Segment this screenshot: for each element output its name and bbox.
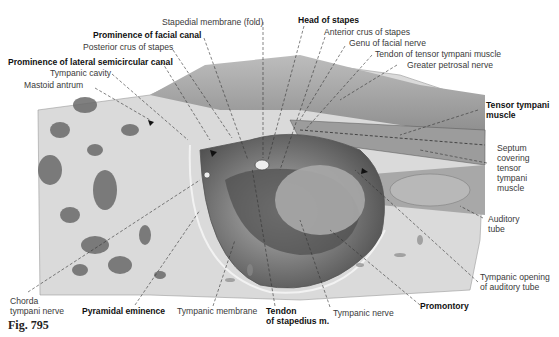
label-line: muscle [486, 110, 516, 120]
label-line: tube [488, 224, 505, 234]
label-anterior-crus: Anterior crus of stapes [324, 27, 410, 37]
label-line: Tensor tympani [486, 100, 549, 110]
label-tendon-stapedius: Tendonof stapedius m. [266, 306, 329, 326]
label-genu-facial-nerve: Genu of facial nerve [349, 38, 426, 48]
label-pyramidal-eminence: Pyramidal eminence [82, 306, 165, 316]
label-tympanic-nerve: Tympanic nerve [333, 308, 394, 318]
label-tendon-tensor-tympani: Tendon of tensor tympani muscle [375, 49, 501, 59]
anatomical-figure: Stapedial membrane (fold) Head of stapes… [0, 0, 559, 337]
label-line: of stapedius m. [266, 316, 329, 326]
label-greater-petrosal: Greater petrosal nerve [407, 60, 493, 70]
label-mastoid-antrum: Mastoid antrum [24, 80, 83, 90]
label-septum: Septumcoveringtensortympanimuscle [497, 143, 529, 193]
label-tympanic-membrane: Tympanic membrane [177, 306, 257, 316]
label-tympanic-cavity: Tympanic cavity [50, 68, 111, 78]
label-tympanic-opening: Tympanic openingof auditory tube [480, 272, 550, 292]
label-promontory: Promontory [420, 301, 469, 311]
label-stapedial-membrane: Stapedial membrane (fold) [162, 17, 263, 27]
label-auditory-tube: Auditorytube [488, 214, 520, 234]
label-line: Chorda [10, 296, 38, 306]
label-prominence-facial-canal: Prominence of facial canal [93, 30, 201, 40]
label-line: of auditory tube [480, 282, 539, 292]
figure-caption: Fig. 795 [8, 318, 49, 333]
label-posterior-crus: Posterior crus of stapes [83, 42, 173, 52]
label-chorda-tympani: Chordatympani nerve [10, 296, 64, 316]
label-prominence-lateral-canal: Prominence of lateral semicircular canal [8, 57, 173, 67]
label-line: covering [497, 153, 529, 163]
label-line: Septum [497, 143, 527, 153]
label-line: tympani [497, 173, 527, 183]
label-line: Tendon [266, 306, 296, 316]
label-line: tensor [497, 163, 521, 173]
label-tensor-tympani-muscle: Tensor tympanimuscle [486, 100, 549, 120]
label-line: muscle [497, 183, 524, 193]
label-line: Auditory [488, 214, 520, 224]
label-line: tympani nerve [10, 306, 64, 316]
label-head-of-stapes: Head of stapes [298, 15, 359, 25]
label-line: Tympanic opening [480, 272, 550, 282]
